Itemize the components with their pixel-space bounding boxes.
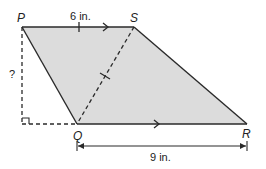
bottom-length-label: 9 in. (150, 151, 171, 163)
vertex-label-q: Q (73, 129, 82, 143)
vertex-label-p: P (17, 11, 25, 25)
right-angle-marker (22, 118, 29, 124)
dimension-arrowhead-right (240, 143, 246, 149)
parallelogram-shape (22, 27, 247, 124)
height-unknown-label: ? (9, 68, 15, 80)
vertex-label-s: S (130, 11, 138, 25)
top-length-label: 6 in. (70, 10, 91, 22)
dimension-arrowhead-left (78, 143, 84, 149)
vertex-label-r: R (242, 127, 251, 141)
parallelogram-diagram: P S Q R 6 in. 9 in. ? (0, 0, 266, 169)
